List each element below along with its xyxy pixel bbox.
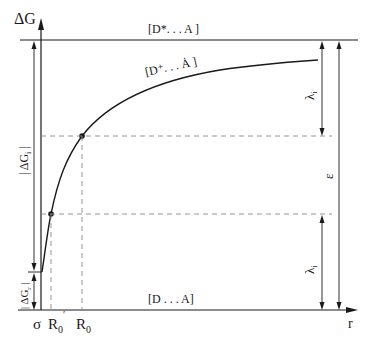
arrow-head-icon	[320, 215, 325, 223]
arrow-head-icon	[320, 128, 325, 136]
y-axis-label: ΔG	[14, 10, 36, 27]
arrow-head-icon	[320, 41, 325, 49]
arrow-head-icon	[337, 41, 342, 49]
r0-prime-mark: ′	[63, 309, 65, 320]
epsilon-label: ε	[321, 173, 336, 179]
arrow-head-icon	[32, 302, 37, 310]
top-level-label: [D*. . . A ]	[148, 22, 199, 36]
energy-curve	[42, 60, 318, 272]
arrow-head-icon	[320, 302, 325, 310]
delta-gr-label: | ΔGr |	[18, 282, 33, 309]
r0-label: R0	[76, 316, 91, 335]
x-axis-arrow-icon	[346, 307, 358, 313]
energy-diagram: ΔG r [D*. . . A ] [D⁺. . . Ȧ ] [D . . . …	[0, 0, 368, 343]
bottom-level-label: [D . . . A]	[148, 292, 194, 306]
arrow-head-icon	[32, 41, 37, 49]
arrow-head-icon	[337, 302, 342, 310]
y-axis-arrow-icon	[38, 18, 44, 30]
curve-label: [D⁺. . . Ȧ ]	[144, 54, 198, 79]
r0-prime-label: R0	[48, 316, 63, 335]
arrow-head-icon	[32, 263, 37, 271]
arrow-head-icon	[32, 273, 37, 281]
x-axis-label: r	[348, 316, 353, 331]
lambda-top-label: λi	[302, 91, 319, 100]
sigma-label: σ	[33, 316, 41, 332]
delta-gi-label: | ΔGi |	[17, 146, 33, 175]
lambda-bottom-label: λi	[302, 265, 319, 274]
